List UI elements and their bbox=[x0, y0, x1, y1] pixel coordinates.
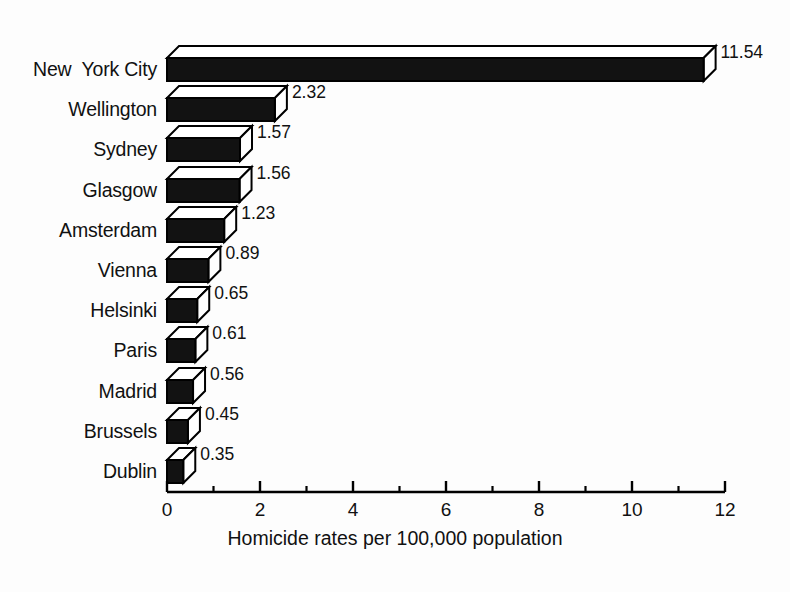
x-tick-label: 12 bbox=[714, 500, 735, 519]
x-tick-label: 6 bbox=[441, 500, 452, 519]
x-tick-label: 8 bbox=[534, 500, 545, 519]
x-tick-label: 10 bbox=[621, 500, 642, 519]
x-tick-label: 2 bbox=[255, 500, 266, 519]
x-tick-label: 4 bbox=[348, 500, 359, 519]
homicide-rates-bar-chart: New York CityWellingtonSydneyGlasgowAmst… bbox=[0, 0, 790, 592]
x-tick-label: 0 bbox=[162, 500, 173, 519]
x-axis bbox=[0, 0, 790, 592]
x-axis-title: Homicide rates per 100,000 population bbox=[0, 528, 790, 548]
